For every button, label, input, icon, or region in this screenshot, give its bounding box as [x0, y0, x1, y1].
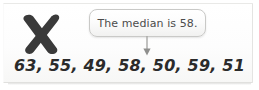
callout-bubble-text: The median is 58.	[97, 18, 197, 29]
incorrect-x-mark-icon	[20, 12, 62, 56]
data-value-list: 63, 55, 49, 58, 50, 59, 51	[0, 56, 259, 75]
callout-bubble: The median is 58.	[89, 9, 206, 37]
down-arrow-icon	[140, 36, 154, 56]
panel-shadow	[8, 83, 251, 85]
figure-root: The median is 58. 63, 55, 49, 58, 50, 59…	[0, 0, 259, 90]
